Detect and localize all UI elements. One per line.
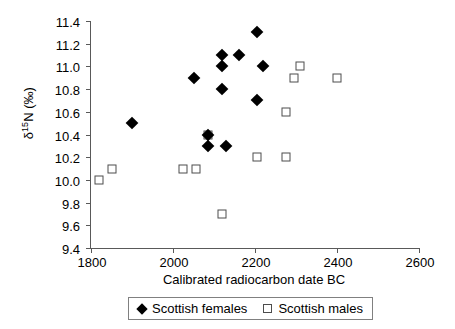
y-axis-tick-label: 9.4 <box>62 243 80 256</box>
y-axis-tick-label: 10.2 <box>55 152 80 165</box>
x-axis-title: Calibrated radiocarbon date BC <box>90 272 418 287</box>
data-point-female <box>216 60 229 73</box>
data-point-male <box>179 164 188 173</box>
y-axis-tick: 9.6 <box>86 225 91 226</box>
data-point-female <box>251 94 264 107</box>
y-axis-tick: 10.4 <box>86 135 91 136</box>
y-axis-tick: 11.4 <box>86 21 91 22</box>
data-point-male <box>95 175 104 184</box>
legend-entry-scottish-males: Scottish males <box>263 301 363 316</box>
y-axis-tick: 10.2 <box>86 157 91 158</box>
y-axis-tick: 9.8 <box>86 203 91 204</box>
y-axis-tick-label: 10.0 <box>55 174 80 187</box>
data-point-male <box>333 73 342 82</box>
x-axis-tick-label: 2000 <box>160 256 189 269</box>
y-axis-tick-label: 9.8 <box>62 197 80 210</box>
legend-label-scottish-females: Scottish females <box>152 301 247 316</box>
data-point-male <box>107 164 116 173</box>
y-axis-tick-label: 11.4 <box>56 16 80 29</box>
x-axis-tick-label: 2600 <box>406 256 435 269</box>
data-point-female <box>201 139 214 152</box>
legend-label-scottish-males: Scottish males <box>278 301 363 316</box>
data-point-female <box>220 139 233 152</box>
data-point-female <box>126 117 139 130</box>
data-point-female <box>232 49 245 62</box>
data-point-male <box>289 73 298 82</box>
y-axis-tick-label: 10.8 <box>55 84 80 97</box>
x-axis-tick-label: 1800 <box>78 256 107 269</box>
data-point-male <box>296 62 305 71</box>
legend-entry-scottish-females: Scottish females <box>138 301 247 316</box>
data-point-female <box>187 71 200 84</box>
x-axis-tick: 2600 <box>419 248 420 253</box>
y-axis-tick: 10.6 <box>86 112 91 113</box>
data-point-female <box>216 83 229 96</box>
y-axis-tick: 11.2 <box>86 44 91 45</box>
x-axis-tick: 2400 <box>337 248 338 253</box>
y-axis-tick: 11.0 <box>86 66 91 67</box>
chart-legend: Scottish females Scottish males <box>128 297 373 320</box>
open-square-icon <box>263 304 272 313</box>
plot-area: 9.49.69.810.010.210.410.610.811.011.211.… <box>90 21 419 249</box>
y-axis-title: δ15N (‰) <box>20 33 36 193</box>
x-axis-tick-label: 2400 <box>324 256 353 269</box>
y-axis-tick: 10.0 <box>86 180 91 181</box>
y-axis-tick-label: 11.0 <box>56 61 80 74</box>
data-point-male <box>281 107 290 116</box>
x-axis-tick: 2200 <box>255 248 256 253</box>
scatter-chart-figure: 9.49.69.810.010.210.410.610.811.011.211.… <box>0 0 455 329</box>
data-point-male <box>281 153 290 162</box>
data-point-female <box>257 60 270 73</box>
data-point-male <box>218 209 227 218</box>
y-axis-tick-label: 10.6 <box>55 106 80 119</box>
y-axis-tick-label: 10.4 <box>55 129 80 142</box>
data-point-male <box>191 164 200 173</box>
data-point-male <box>253 153 262 162</box>
x-axis-tick: 1800 <box>91 248 92 253</box>
y-axis-tick-label: 11.2 <box>56 38 80 51</box>
filled-diamond-icon <box>136 303 147 314</box>
y-axis-tick: 10.8 <box>86 89 91 90</box>
x-axis-tick-label: 2200 <box>242 256 271 269</box>
x-axis-tick: 2000 <box>173 248 174 253</box>
y-axis-tick-label: 9.6 <box>62 220 80 233</box>
data-point-female <box>251 26 264 39</box>
